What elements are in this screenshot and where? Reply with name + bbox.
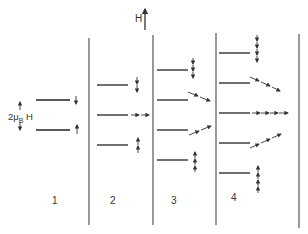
panel-label: 3	[171, 195, 177, 206]
panel-label: 2	[110, 195, 116, 206]
panel-label: 1	[52, 195, 58, 206]
splitting-label: 2μB H	[8, 111, 33, 124]
panel-3: 3	[157, 58, 211, 206]
spin-diag-up-arrows-icon	[189, 126, 211, 135]
panel-4: 4	[219, 35, 288, 203]
spin-diag-down-arrows-icon	[188, 92, 210, 101]
panel-2: 2	[97, 77, 149, 206]
panel-1: 2μB H 1	[8, 96, 77, 206]
field-label: H	[135, 13, 142, 24]
spin-diag-down-arrows-icon	[250, 77, 280, 91]
spin-diag-up-arrows-icon	[250, 134, 281, 148]
panel-label: 4	[231, 192, 237, 203]
spin-level-diagram: H 2μB H 1	[0, 0, 308, 234]
